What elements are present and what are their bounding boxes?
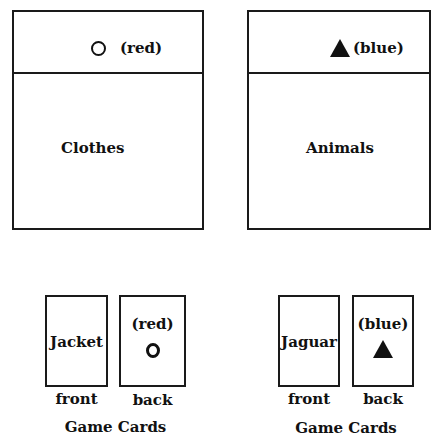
category-label: Animals <box>306 139 374 157</box>
game-cards-title: Game Cards <box>278 419 414 436</box>
card-back-color-label: (blue) <box>354 315 412 333</box>
header-divider <box>249 72 429 74</box>
header-divider <box>14 72 202 74</box>
circle-icon <box>91 41 106 56</box>
front-caption: front <box>278 390 340 408</box>
triangle-icon <box>373 340 393 358</box>
card-front-jacket: Jacket <box>45 295 108 387</box>
card-front-word: Jacket <box>47 333 106 351</box>
category-box-clothes: (red) Clothes <box>12 10 204 230</box>
category-label: Clothes <box>61 139 124 157</box>
header-color-label: (red) <box>120 39 162 57</box>
front-caption: front <box>45 390 108 408</box>
back-caption: back <box>352 390 414 408</box>
triangle-icon <box>330 39 350 57</box>
card-front-word: Jaguar <box>280 333 338 351</box>
card-front-jaguar: Jaguar <box>278 295 340 387</box>
card-back-red: (red) <box>119 295 186 387</box>
card-back-blue: (blue) <box>352 295 414 387</box>
circle-icon <box>146 343 160 358</box>
card-back-color-label: (red) <box>121 315 184 333</box>
game-cards-title: Game Cards <box>45 418 186 436</box>
back-caption: back <box>119 391 186 409</box>
header-color-label: (blue) <box>353 39 404 57</box>
category-box-animals: (blue) Animals <box>247 10 431 230</box>
